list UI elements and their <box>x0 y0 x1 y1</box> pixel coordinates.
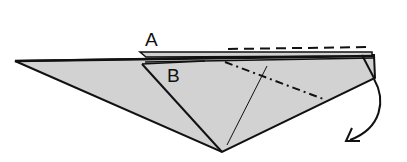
label-b: B <box>167 65 180 86</box>
origami-diagram: A B <box>0 0 407 162</box>
label-a: A <box>145 29 158 50</box>
paper-body <box>15 55 375 152</box>
valley-fold-line <box>228 47 372 49</box>
